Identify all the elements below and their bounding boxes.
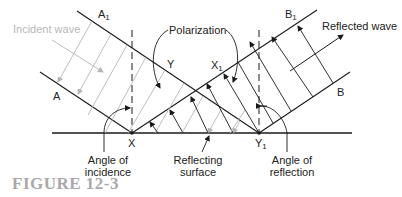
label-b1: B1 — [285, 8, 297, 24]
reflected-wave-arrow — [290, 35, 343, 71]
label-a: A — [53, 90, 60, 102]
angle-of-reflection-label: Angle of reflection — [262, 154, 322, 178]
incident-rays — [58, 21, 240, 133]
reflecting-surface-leader — [202, 136, 209, 152]
reflecting-surface-label: Reflecting surface — [163, 154, 233, 178]
incident-wave-label: Incident wave — [13, 23, 80, 35]
polarization-arrow-right — [226, 30, 238, 82]
point-x — [130, 131, 134, 135]
incident-wave-arrow — [52, 40, 103, 72]
reflected-wave-label: Reflected wave — [322, 20, 397, 32]
wavefront-b — [259, 72, 350, 133]
wavefront-a — [40, 72, 132, 133]
label-x: X — [128, 137, 135, 149]
polarization-arrow-left — [153, 30, 168, 88]
label-x1: X1 — [211, 59, 223, 75]
point-y1 — [257, 131, 261, 135]
label-y1: Y1 — [255, 137, 267, 153]
figure-caption: FIGURE 12-3 — [12, 174, 119, 194]
reflected-rays — [150, 26, 333, 133]
label-b: B — [337, 86, 344, 98]
label-y: Y — [167, 58, 174, 70]
label-a1: A1 — [98, 8, 110, 24]
polarization-label: Polarization — [169, 24, 226, 36]
